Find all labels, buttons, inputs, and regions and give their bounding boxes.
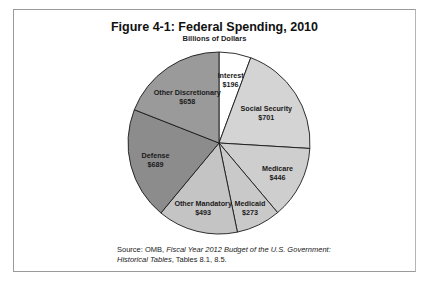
source-note: Source: OMB, Fiscal Year 2012 Budget of … bbox=[117, 245, 331, 265]
source-prefix: Source: OMB, bbox=[117, 245, 166, 254]
source-title-2: Historical Tables bbox=[117, 255, 172, 264]
pie-chart: Interest$196Social Security$701Medicare$… bbox=[0, 0, 429, 285]
source-suffix: , Tables 8.1, 8.5. bbox=[172, 255, 227, 264]
source-title: Fiscal Year 2012 Budget of the U.S. Gove… bbox=[166, 245, 331, 254]
